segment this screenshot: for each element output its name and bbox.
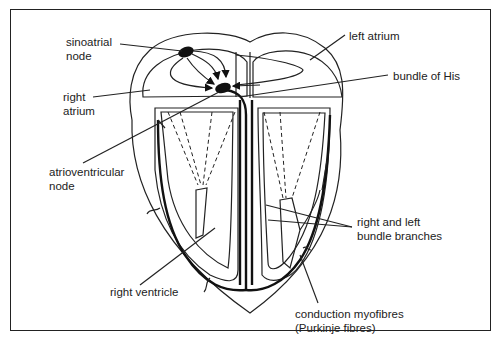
- label-sinoatrial-node-2: node: [66, 50, 92, 62]
- chordae: [180, 112, 201, 185]
- leader-av-node: [83, 92, 219, 163]
- conduction-arrow: [170, 58, 212, 88]
- label-bundle-of-his: bundle of His: [393, 70, 460, 82]
- label-right-ventricle: right ventricle: [110, 286, 178, 298]
- chordae: [206, 112, 235, 185]
- label-bundle-branches-2: bundle branches: [357, 230, 442, 242]
- chordae: [280, 112, 286, 198]
- label-bundle-branches: right and left: [357, 216, 421, 228]
- label-av-node-2: node: [49, 180, 75, 192]
- label-purkinje-2: (Purkinje fibres): [295, 322, 376, 334]
- conduction-arrow: [192, 54, 218, 79]
- chordae: [292, 112, 320, 198]
- label-right-atrium-2: atrium: [63, 105, 95, 117]
- left-ventricle-inner: [263, 113, 325, 269]
- chordae: [168, 112, 198, 185]
- leader-purkinje: [300, 255, 318, 303]
- papillary-muscle-left: [280, 198, 300, 268]
- leader-sinoatrial: [120, 44, 182, 51]
- label-purkinje: conduction myofibres: [295, 308, 404, 320]
- sinoatrial-node: [177, 45, 195, 60]
- label-right-atrium: right: [63, 91, 86, 103]
- leader-left-atrium: [310, 35, 345, 60]
- conduction-arrow: [187, 58, 214, 84]
- leader-bundle-his: [240, 75, 388, 97]
- atrium-inner-wall: [143, 49, 247, 97]
- label-av-node: atrioventricular: [49, 166, 125, 178]
- papillary-muscle-right: [196, 188, 207, 238]
- heart-diagram: sinoatrial node left atrium bundle of Hi…: [0, 0, 503, 344]
- leader-right-atrium: [93, 90, 150, 97]
- left-atrium-chamber: [236, 55, 303, 85]
- label-sinoatrial-node: sinoatrial: [66, 36, 112, 48]
- chordae: [264, 112, 283, 198]
- label-left-atrium: left atrium: [349, 30, 400, 42]
